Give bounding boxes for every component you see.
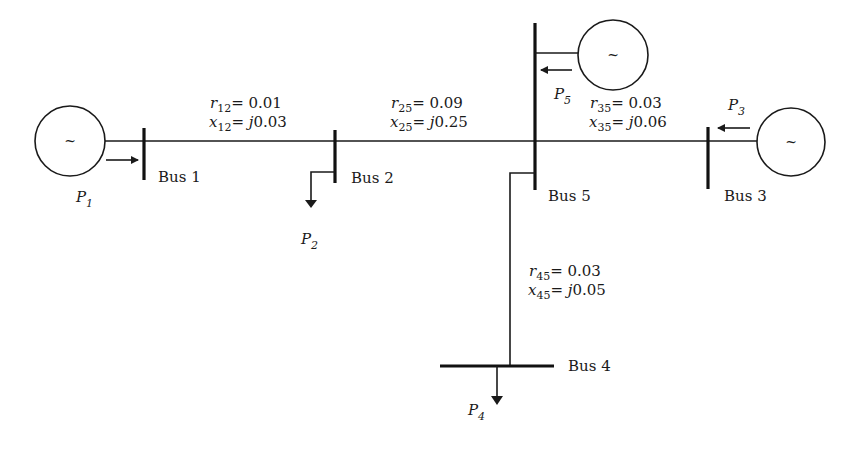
line-35-params: r35= 0.03 x35= j0.06 [589, 94, 667, 134]
bus-4-label: Bus 4 [568, 357, 611, 375]
line-45-params: r45= 0.03 x45= j0.05 [528, 262, 606, 302]
line-12-params: r12= 0.01 x12= j0.03 [209, 94, 287, 134]
load-2-arrow-icon [305, 200, 317, 208]
ac-source-icon: ~ [607, 47, 619, 63]
ac-source-icon: ~ [64, 133, 76, 149]
load-4-arrow-icon [491, 396, 503, 405]
svg-text:r12= 0.01: r12= 0.01 [210, 94, 282, 115]
bus-2-label: Bus 2 [351, 169, 394, 187]
bus-2-load-branch [311, 172, 335, 202]
power-system-diagram: ~ P1 Bus 1 r12= 0.01 x12= j0.03 Bus 2 P2… [0, 0, 854, 452]
p1-label: P1 [75, 188, 93, 210]
bus-1-label: Bus 1 [158, 168, 201, 186]
p3-label: P3 [727, 96, 745, 118]
p2-label: P2 [300, 230, 318, 252]
svg-text:r45= 0.03: r45= 0.03 [529, 262, 601, 283]
generator-5: ~ [578, 20, 648, 90]
bus-5-label: Bus 5 [548, 187, 591, 205]
svg-text:x45= j0.05: x45= j0.05 [528, 281, 606, 302]
svg-text:x12= j0.03: x12= j0.03 [209, 113, 287, 134]
svg-text:r25= 0.09: r25= 0.09 [391, 94, 463, 115]
generator-1: ~ [35, 106, 105, 176]
svg-text:r35= 0.03: r35= 0.03 [590, 94, 662, 115]
line-25-params: r25= 0.09 x25= j0.25 [390, 94, 468, 134]
svg-text:x35= j0.06: x35= j0.06 [589, 113, 667, 134]
ac-source-icon: ~ [785, 134, 797, 150]
svg-text:x25= j0.25: x25= j0.25 [390, 113, 468, 134]
p4-label: P4 [467, 401, 485, 423]
generator-3: ~ [757, 108, 825, 176]
bus-3-label: Bus 3 [724, 187, 767, 205]
p5-label: P5 [553, 85, 571, 107]
